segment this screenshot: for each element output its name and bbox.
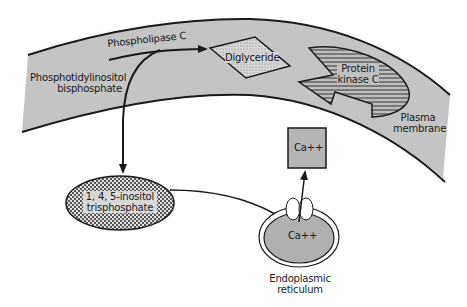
calcium-er-label: Ca++ [288,230,317,241]
diglyceride-label: Diglyceride [225,52,279,63]
pip2-label-line1: Phosphotidylinositol [30,72,122,83]
calcium-channel-left [286,198,300,220]
plasma-membrane-line1: Plasma [393,112,443,123]
plasma-membrane-line2: membrane [393,123,443,134]
pkc-label-line2: kinase C [337,74,379,85]
pkc-label-line1: Protein [337,63,379,74]
ip3-label-line2: trisphosphate [83,202,157,213]
endoplasmic-reticulum-label: Endoplasmic reticulum [265,273,335,295]
calcium-cytosol-label: Ca++ [294,142,323,153]
er-label-line2: reticulum [265,284,335,295]
pip2-label: Phosphotidylinositol bisphosphate [30,72,122,94]
diagram-canvas: Phospholipase C Phosphotidylinositol bis… [0,0,467,307]
ip3-label: 1, 4, 5-inositol trisphosphate [83,191,157,213]
pip2-label-line2: bisphosphate [30,83,122,94]
er-label-line1: Endoplasmic [265,273,335,284]
plasma-membrane-label: Plasma membrane [393,112,443,134]
ip3-to-er-line [170,190,275,214]
ip3-label-line1: 1, 4, 5-inositol [83,191,157,202]
protein-kinase-c-label: Protein kinase C [337,63,379,85]
